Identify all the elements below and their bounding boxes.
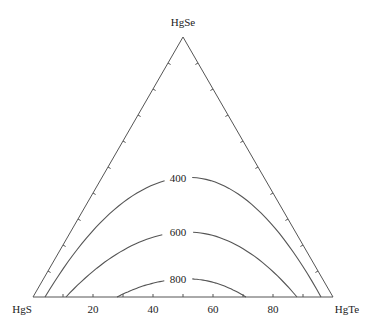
vertex-label-left: HgS — [12, 303, 32, 315]
contour-lines: 400600800 — [45, 172, 321, 297]
right-edge-tick — [270, 193, 273, 195]
right-edge-tick — [285, 219, 288, 221]
left-edge-tick — [153, 89, 156, 91]
base-tick-label: 40 — [148, 303, 160, 315]
contour-line-600 — [193, 232, 297, 297]
triangle-frame — [33, 37, 333, 297]
base-tick-labels: 20406080 — [88, 303, 280, 315]
left-edge-tick — [123, 141, 126, 143]
vertex-label-top: HgSe — [171, 16, 196, 28]
left-edge-tick — [93, 193, 96, 195]
base-tick-label: 80 — [268, 303, 280, 315]
left-edge-tick — [138, 115, 141, 117]
right-edge-tick — [300, 245, 303, 247]
right-edge-tick — [240, 141, 243, 143]
contour-label-400: 400 — [170, 172, 187, 184]
base-tick-label: 60 — [208, 303, 220, 315]
contour-label-600: 600 — [170, 226, 187, 238]
contour-line-800 — [117, 281, 164, 297]
vertex-label-right: HgTe — [335, 303, 359, 315]
left-edge-tick — [63, 245, 66, 247]
right-edge-tick — [315, 271, 318, 273]
base-tick-label: 20 — [88, 303, 100, 315]
ternary-diagram: 400600800 HgSe HgS HgTe 20406080 — [0, 0, 370, 333]
triangle-edges — [33, 37, 333, 297]
right-edge-tick — [225, 115, 228, 117]
left-edge-tick — [108, 167, 111, 169]
left-edge-tick — [168, 63, 171, 65]
contour-label-800: 800 — [170, 273, 187, 285]
contour-line-400 — [192, 178, 321, 298]
right-edge-tick — [210, 89, 213, 91]
right-edge-tick — [255, 167, 258, 169]
left-edge-tick — [78, 219, 81, 221]
left-edge-tick — [48, 271, 51, 273]
right-edge-tick — [195, 63, 198, 65]
contour-line-800 — [192, 279, 246, 297]
contour-line-600 — [66, 235, 162, 297]
